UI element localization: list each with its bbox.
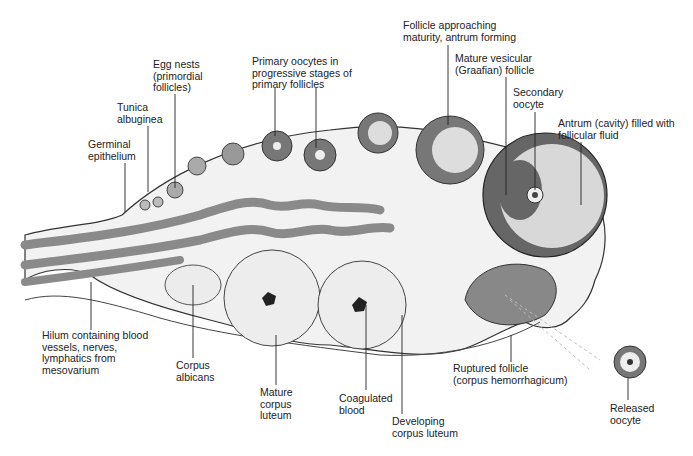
label-corpus-albicans: Corpus albicans <box>176 360 215 383</box>
label-mature-corpus-luteum: Mature corpus luteum <box>260 387 293 422</box>
label-secondary-oocyte: Secondary oocyte <box>513 87 563 110</box>
label-follicle-approaching-maturity: Follicle approaching maturity, antrum fo… <box>403 20 516 43</box>
label-released-oocyte: Released oocyte <box>610 403 654 426</box>
label-mature-vesicular-follicle: Mature vesicular (Graafian) follicle <box>455 53 534 76</box>
label-tunica-albuginea: Tunica albuginea <box>117 102 163 125</box>
label-egg-nests: Egg nests (primordial follicles) <box>153 59 203 94</box>
label-ruptured-follicle: Ruptured follicle (corpus hemorrhagicum) <box>453 363 567 386</box>
label-germinal-epithelium: Germinal epithelium <box>88 139 136 162</box>
label-hilum: Hilum containing blood vessels, nerves, … <box>42 330 148 376</box>
label-coagulated-blood: Coagulated blood <box>339 393 393 416</box>
label-antrum: Antrum (cavity) filled with follicular f… <box>558 118 675 141</box>
label-developing-corpus-luteum: Developing corpus luteum <box>392 416 458 439</box>
label-primary-oocytes: Primary oocytes in progressive stages of… <box>252 56 352 91</box>
